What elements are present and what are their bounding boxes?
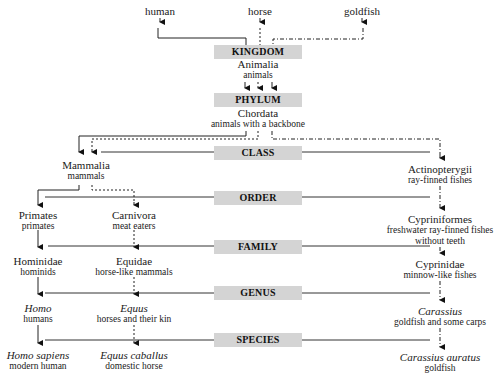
scientific-name: Animalia bbox=[238, 59, 279, 70]
common-name: horses and their kin bbox=[97, 314, 172, 325]
node-genus-carassius: Carassius goldfish and some carps bbox=[394, 306, 486, 328]
scientific-name: Hominidae bbox=[14, 256, 63, 267]
common-name: animals with a backbone bbox=[211, 119, 305, 130]
node-family-hominidae: Hominidae hominids bbox=[14, 256, 63, 278]
node-phylum-chordata: Chordata animals with a backbone bbox=[211, 108, 305, 130]
rank-bar-genus: GENUS bbox=[214, 286, 302, 300]
common-name: freshwater ray-finned fishes bbox=[387, 225, 494, 236]
scientific-name: Equus bbox=[97, 303, 172, 314]
scientific-name: Carassius bbox=[394, 306, 486, 317]
common-name: horse-like mammals bbox=[95, 267, 172, 278]
rank-bar-species: SPECIES bbox=[214, 333, 302, 347]
node-species-homo-sapiens: Homo sapiens modern human bbox=[7, 350, 70, 372]
rank-bar-class: CLASS bbox=[214, 146, 302, 160]
scientific-name: Mammalia bbox=[62, 160, 110, 171]
node-class-actinopterygii: Actinopterygii ray-finned fishes bbox=[408, 164, 472, 186]
rank-bar-order: ORDER bbox=[214, 191, 302, 205]
scientific-name: Cyprinidae bbox=[403, 259, 476, 270]
common-name: ray-finned fishes bbox=[408, 175, 472, 186]
common-name: humans bbox=[23, 314, 53, 325]
common-name: domestic horse bbox=[100, 361, 168, 372]
scientific-name: Actinopterygii bbox=[408, 164, 472, 175]
common-name: animals bbox=[238, 70, 279, 81]
organism-label-human: human bbox=[145, 5, 175, 17]
scientific-name: Primates bbox=[19, 210, 58, 221]
common-name: goldfish and some carps bbox=[394, 317, 486, 328]
scientific-name: Carassius auratus bbox=[400, 352, 480, 363]
scientific-name: Homo sapiens bbox=[7, 350, 70, 361]
node-genus-homo: Homo humans bbox=[23, 303, 53, 325]
node-order-cypriniformes: Cypriniformes freshwater ray-finned fish… bbox=[387, 214, 494, 247]
common-name: meat eaters bbox=[112, 221, 156, 232]
rank-bar-phylum: PHYLUM bbox=[214, 93, 302, 107]
common-name: goldfish bbox=[400, 363, 480, 374]
rank-bar-family: FAMILY bbox=[214, 240, 302, 254]
common-name: modern human bbox=[7, 361, 70, 372]
common-name: mammals bbox=[62, 171, 110, 182]
node-kingdom-animalia: Animalia animals bbox=[238, 59, 279, 81]
node-species-carassius-auratus: Carassius auratus goldfish bbox=[400, 352, 480, 374]
scientific-name: Carnivora bbox=[112, 210, 156, 221]
node-species-equus-caballus: Equus caballus domestic horse bbox=[100, 350, 168, 372]
taxonomy-diagram: human horse goldfish KINGDOM PHYLUM CLAS… bbox=[0, 0, 503, 383]
scientific-name: Equidae bbox=[95, 256, 172, 267]
common-name: hominids bbox=[14, 267, 63, 278]
scientific-name: Chordata bbox=[211, 108, 305, 119]
node-family-cyprinidae: Cyprinidae minnow-like fishes bbox=[403, 259, 476, 281]
scientific-name: Equus caballus bbox=[100, 350, 168, 361]
common-name-line2: without teeth bbox=[387, 236, 494, 247]
scientific-name: Cypriniformes bbox=[387, 214, 494, 225]
common-name: minnow-like fishes bbox=[403, 270, 476, 281]
scientific-name: Homo bbox=[23, 303, 53, 314]
common-name: primates bbox=[19, 221, 58, 232]
organism-label-horse: horse bbox=[248, 5, 272, 17]
node-order-primates: Primates primates bbox=[19, 210, 58, 232]
node-genus-equus: Equus horses and their kin bbox=[97, 303, 172, 325]
organism-label-goldfish: goldfish bbox=[344, 5, 380, 17]
node-family-equidae: Equidae horse-like mammals bbox=[95, 256, 172, 278]
rank-bar-kingdom: KINGDOM bbox=[214, 45, 302, 59]
node-order-carnivora: Carnivora meat eaters bbox=[112, 210, 156, 232]
node-class-mammalia: Mammalia mammals bbox=[62, 160, 110, 182]
